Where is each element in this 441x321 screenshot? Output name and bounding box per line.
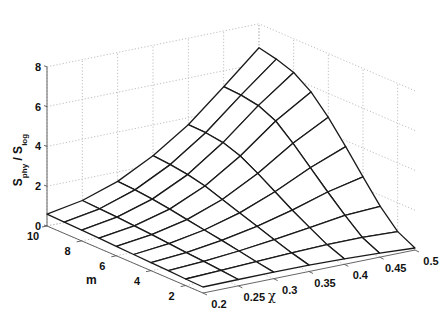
z-tick-label: 0 bbox=[35, 220, 41, 232]
m-tick-label: 2 bbox=[169, 290, 175, 302]
surface-mesh bbox=[47, 48, 415, 287]
chi-tick-label: 0.5 bbox=[423, 255, 438, 267]
z-tick-label: 4 bbox=[35, 140, 42, 152]
z-tick-label: 2 bbox=[35, 180, 41, 192]
surface-plot: 0.20.250.30.350.40.450.5 246810 02468 χ … bbox=[0, 0, 441, 321]
chi-tick-label: 0.4 bbox=[353, 269, 369, 281]
svg-text:Sphy / Slog: Sphy / Slog bbox=[11, 134, 29, 186]
chi-tick-label: 0.45 bbox=[385, 262, 406, 274]
z-axis-label: Sphy / Slog bbox=[11, 134, 29, 186]
chi-tick-label: 0.25 bbox=[244, 291, 265, 303]
chi-tick-label: 0.35 bbox=[314, 277, 335, 289]
m-tick-label: 4 bbox=[134, 275, 141, 287]
m-tick-label: 6 bbox=[99, 260, 105, 272]
m-tick-label: 8 bbox=[65, 245, 71, 257]
x-axis-label: χ bbox=[268, 288, 276, 303]
z-tick-label: 6 bbox=[35, 101, 41, 113]
z-axis-ticks: 02468 bbox=[35, 61, 47, 232]
chi-tick-label: 0.2 bbox=[211, 298, 226, 310]
chi-tick-label: 0.3 bbox=[282, 284, 297, 296]
z-tick-label: 8 bbox=[35, 61, 41, 73]
y-axis-label: m bbox=[86, 273, 97, 287]
